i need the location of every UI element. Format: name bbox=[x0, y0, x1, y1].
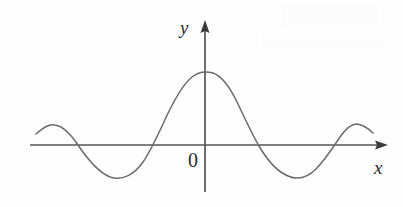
plot-canvas bbox=[0, 0, 403, 207]
y-axis-label: y bbox=[180, 18, 188, 37]
origin-label: 0 bbox=[188, 150, 198, 170]
x-axis-label: x bbox=[374, 158, 382, 177]
graph-figure: y x 0 bbox=[0, 0, 403, 207]
